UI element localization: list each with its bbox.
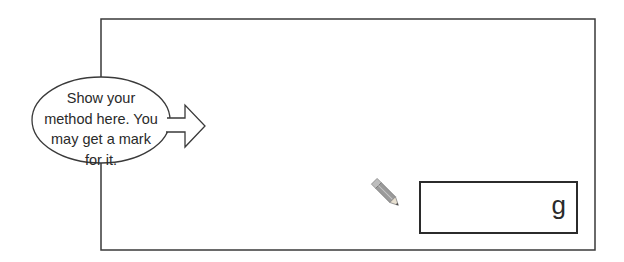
- arrow-right-icon: [166, 105, 205, 147]
- method-prompt: Show your method here. You may get a mar…: [36, 88, 166, 170]
- method-prompt-line: for it.: [36, 150, 166, 171]
- method-prompt-line: Show your: [36, 88, 166, 109]
- pencil-icon: [371, 178, 401, 208]
- answer-input-box[interactable]: g: [419, 181, 578, 234]
- method-prompt-line: method here. You: [36, 109, 166, 130]
- method-prompt-line: may get a mark: [36, 129, 166, 150]
- answer-unit-label: g: [552, 190, 566, 221]
